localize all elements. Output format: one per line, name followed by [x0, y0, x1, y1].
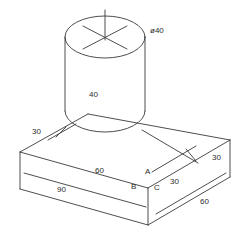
- vertex-label-a: A: [145, 168, 150, 176]
- dimension-front-offset-30: 30: [170, 178, 179, 186]
- cylinder-bottom-arc: [65, 111, 145, 132]
- dimension-cylinder-height-40: 40: [89, 91, 98, 99]
- base-bottom-edge-front-right: [148, 177, 230, 225]
- dimension-right-thickness-30: 30: [212, 154, 221, 162]
- vertex-label-b: B: [131, 183, 136, 191]
- base-top-face-edge-back-left: [20, 114, 88, 152]
- dimtick-back-left-depth-30: [56, 127, 66, 137]
- dimline-bottom-length-90: [24, 173, 146, 207]
- dimension-front-width-60: 60: [200, 198, 209, 206]
- technical-drawing-canvas: ø40 40 30 60 90 30 30 60 A B C: [0, 0, 247, 238]
- dimline-front-offset-30: [152, 146, 196, 172]
- dimension-bottom-length-90: 90: [57, 186, 66, 194]
- base-top-face-edge-front-left: [20, 152, 148, 188]
- base-top-face-edge-back-right: [88, 114, 230, 140]
- dimline-front-width-60: [156, 173, 226, 214]
- dimension-diameter-40: ø40: [150, 27, 164, 35]
- dimline-back-left-depth-30: [48, 124, 76, 140]
- isometric-drawing-svg: [0, 0, 247, 238]
- dimension-back-left-depth-30: 30: [32, 128, 41, 136]
- base-bottom-edge-front-left: [20, 189, 148, 225]
- vertex-label-c: C: [154, 184, 160, 192]
- dimension-top-length-60: 60: [95, 167, 104, 175]
- dimline-right-depth-30: [142, 130, 198, 163]
- base-top-face-edge-front-right: [148, 140, 230, 188]
